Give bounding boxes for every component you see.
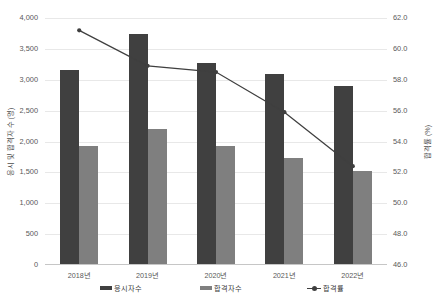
y-axis-right-title: 합격률 (%) (422, 96, 432, 188)
y-axis-left-tick-label: 3,500 (8, 45, 38, 53)
legend-item[interactable]: 합격률 (307, 282, 344, 294)
y-axis-right-tick-label: 60.0 (393, 45, 423, 53)
y-axis-left-tick-label: 2,000 (8, 138, 38, 146)
line-series-overlay (45, 18, 387, 265)
y-axis-left-tick-label: 4,000 (8, 14, 38, 22)
legend-label: 합격자수 (214, 283, 242, 293)
legend-color-swatch (200, 286, 212, 290)
x-axis-category-label: 2020년 (182, 270, 250, 280)
y-axis-left-tick-label: 1,000 (8, 199, 38, 207)
legend-item[interactable]: 합격자수 (200, 282, 242, 294)
y-axis-right-tick-label: 54.0 (393, 138, 423, 146)
y-axis-right-tick-label: 50.0 (393, 199, 423, 207)
legend-label: 합격률 (323, 283, 344, 293)
legend-item[interactable]: 응시자수 (100, 282, 142, 294)
y-axis-right-tick-label: 56.0 (393, 107, 423, 115)
chart-legend: 응시자수합격자수합격률 (45, 282, 387, 296)
line-marker (146, 64, 150, 68)
y-axis-right-tick-label: 46.0 (393, 261, 423, 269)
x-axis-line (45, 264, 387, 265)
y-axis-left-tick-label: 500 (8, 230, 38, 238)
line-marker (77, 28, 81, 32)
y-axis-right-tick-label: 52.0 (393, 168, 423, 176)
line-series-markers (77, 28, 355, 168)
plot-area (45, 18, 387, 265)
chart-container: 응시 및 합격자 수 (명) 합격률 (%) 05001,0001,5002,0… (0, 0, 433, 301)
y-axis-right-tick-label: 48.0 (393, 230, 423, 238)
y-axis-right-tick-label: 62.0 (393, 14, 423, 22)
y-axis-left-tick-label: 3,000 (8, 76, 38, 84)
line-marker (214, 70, 218, 74)
legend-color-swatch (100, 286, 112, 290)
x-axis-category-label: 2022년 (319, 270, 387, 280)
line-series-path (79, 30, 353, 166)
line-marker (351, 164, 355, 168)
x-axis-category-label: 2021년 (250, 270, 318, 280)
x-axis-category-label: 2019년 (113, 270, 181, 280)
legend-line-marker-icon (307, 285, 321, 291)
line-marker (282, 110, 286, 114)
y-axis-left-tick-label: 2,500 (8, 107, 38, 115)
y-axis-left-tick-label: 1,500 (8, 168, 38, 176)
y-axis-left-tick-label: 0 (8, 261, 38, 269)
y-axis-right-tick-label: 58.0 (393, 76, 423, 84)
x-axis-category-label: 2018년 (45, 270, 113, 280)
legend-label: 응시자수 (114, 283, 142, 293)
